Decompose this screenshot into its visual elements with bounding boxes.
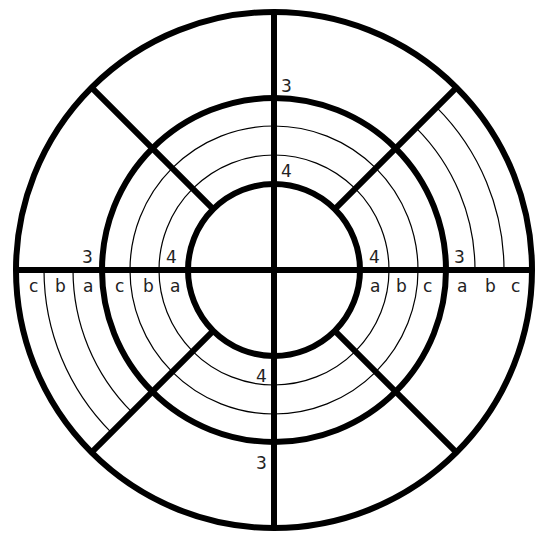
sublabel-right-1: a	[370, 276, 380, 296]
label-top-3: 3	[281, 76, 292, 96]
sublabel-right-3: c	[423, 276, 432, 296]
label-bottom-4: 4	[256, 366, 267, 386]
spoke-top-right	[335, 88, 457, 210]
sublabel-left-1: c	[29, 276, 38, 296]
sublabel-right-2: b	[396, 276, 407, 296]
label-left-4: 4	[166, 247, 177, 267]
spoke-bottom-right	[335, 331, 457, 453]
label-left-3: 3	[82, 247, 93, 267]
spoke-top-left	[92, 88, 214, 210]
sublabel-left-3: a	[83, 276, 93, 296]
thick-structure	[16, 12, 532, 528]
sublabel-left-4: c	[115, 276, 124, 296]
sublabel-right-4: a	[457, 276, 467, 296]
sublabel-left-2: b	[55, 276, 66, 296]
label-right-3: 3	[454, 247, 465, 267]
sublabel-left-6: a	[170, 276, 180, 296]
ring-diagram: 3 4 4 3 3 4 4 3 c b a c b a a b c a b c	[0, 0, 536, 556]
sublabel-right-6: c	[511, 276, 520, 296]
spoke-bottom-left	[92, 331, 214, 453]
label-right-4: 4	[369, 247, 380, 267]
label-top-4: 4	[281, 161, 292, 181]
label-bottom-3: 3	[256, 453, 267, 473]
sublabel-left-5: b	[143, 276, 154, 296]
sublabel-right-5: b	[485, 276, 496, 296]
